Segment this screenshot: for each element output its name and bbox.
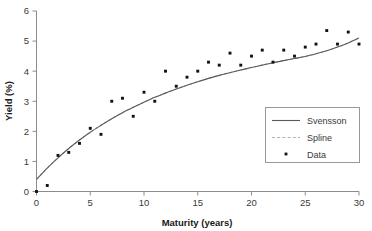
- legend-svensson-label: Svensson: [307, 116, 347, 126]
- data-point: [67, 151, 70, 154]
- data-point: [164, 70, 167, 73]
- data-point: [46, 184, 49, 187]
- data-point: [143, 91, 146, 94]
- x-tick-label: 30: [354, 197, 365, 208]
- chart-legend: Svensson Spline Data: [266, 108, 360, 163]
- y-tick-label: 4: [24, 66, 29, 77]
- data-point: [153, 100, 156, 103]
- data-point: [218, 64, 221, 67]
- legend-data-label: Data: [307, 150, 326, 160]
- x-tick-group: 051015202530: [34, 192, 364, 209]
- x-tick-label: 10: [139, 197, 150, 208]
- data-point: [282, 49, 285, 52]
- data-point: [229, 52, 232, 55]
- x-tick-label: 5: [88, 197, 93, 208]
- y-tick-label: 6: [24, 5, 29, 16]
- data-point: [272, 61, 275, 64]
- data-point: [110, 100, 113, 103]
- y-tick-label: 0: [24, 186, 29, 197]
- data-point: [250, 55, 253, 58]
- y-tick-label: 1: [24, 156, 29, 167]
- data-point: [347, 31, 350, 34]
- y-tick-group: 0123456: [24, 5, 37, 197]
- legend-spline-label: Spline: [307, 133, 332, 143]
- legend-data-swatch: [285, 153, 288, 156]
- data-point: [239, 64, 242, 67]
- data-point: [57, 154, 60, 157]
- data-point: [304, 46, 307, 49]
- data-point: [196, 70, 199, 73]
- x-tick-label: 0: [34, 197, 39, 208]
- data-point: [261, 49, 264, 52]
- data-point: [100, 133, 103, 136]
- data-point: [336, 43, 339, 46]
- data-point: [293, 55, 296, 58]
- x-axis-title: Maturity (years): [162, 217, 233, 228]
- y-axis-title: Yield (%): [3, 81, 14, 121]
- chart-canvas: 0123456 051015202530 Maturity (years) Yi…: [0, 0, 372, 231]
- data-point: [325, 29, 328, 32]
- data-point: [132, 115, 135, 118]
- data-point: [315, 43, 318, 46]
- data-point: [207, 61, 210, 64]
- data-point: [78, 142, 81, 145]
- y-tick-label: 3: [24, 96, 29, 107]
- x-tick-label: 15: [192, 197, 203, 208]
- data-point: [358, 43, 361, 46]
- x-tick-label: 20: [246, 197, 257, 208]
- y-tick-label: 2: [24, 126, 29, 137]
- x-tick-label: 25: [300, 197, 311, 208]
- data-point: [89, 127, 92, 130]
- data-point: [35, 190, 38, 193]
- axes-group: [37, 11, 360, 192]
- y-tick-label: 5: [24, 35, 29, 46]
- data-point: [186, 76, 189, 79]
- data-point: [121, 97, 124, 100]
- chart-figure: 0123456 051015202530 Maturity (years) Yi…: [0, 0, 372, 231]
- data-point: [175, 85, 178, 88]
